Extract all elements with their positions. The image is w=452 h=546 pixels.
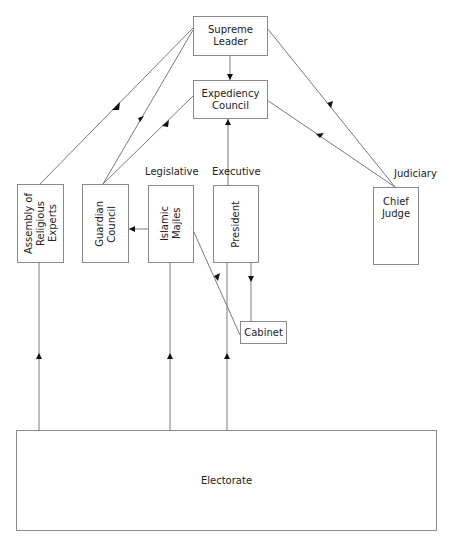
arrow-guardian-to-expediency xyxy=(162,120,169,127)
arrow-president-to-cabinet xyxy=(248,276,254,282)
arrow-leader-to-guardian xyxy=(138,116,144,122)
label-executive: Executive xyxy=(212,166,261,177)
node-guardian-council: Guardian Council xyxy=(82,184,129,263)
arrow-electorate-to-president xyxy=(224,353,230,359)
arrow-electorate-to-majles xyxy=(167,353,173,359)
arrow-assembly-to-leader xyxy=(112,102,120,110)
arrow-majles-to-guardian xyxy=(129,226,135,232)
president-label: President xyxy=(230,201,242,248)
arrow-president-to-expediency xyxy=(225,119,231,125)
node-expediency-council: Expediency Council xyxy=(193,80,268,119)
node-president: President xyxy=(213,185,259,263)
node-supreme-leader: Supreme Leader xyxy=(193,16,268,56)
node-islamic-majles: Islamic Majles xyxy=(148,185,194,263)
edge-judge-to-expediency xyxy=(267,100,395,187)
label-judiciary: Judiciary xyxy=(394,168,437,179)
majles-label: Islamic Majles xyxy=(159,206,183,241)
label-legislative: Legislative xyxy=(145,166,199,177)
arrow-electorate-to-assembly xyxy=(36,353,42,359)
node-electorate: Electorate xyxy=(16,430,437,531)
node-cabinet: Cabinet xyxy=(240,321,287,344)
node-assembly-of-religious-experts: Assembly of Religious Experts xyxy=(17,184,64,263)
assembly-label: Assembly of Religious Experts xyxy=(23,193,59,254)
node-chief-judge: Chief Judge xyxy=(373,187,419,265)
guardian-label: Guardian Council xyxy=(94,201,118,247)
